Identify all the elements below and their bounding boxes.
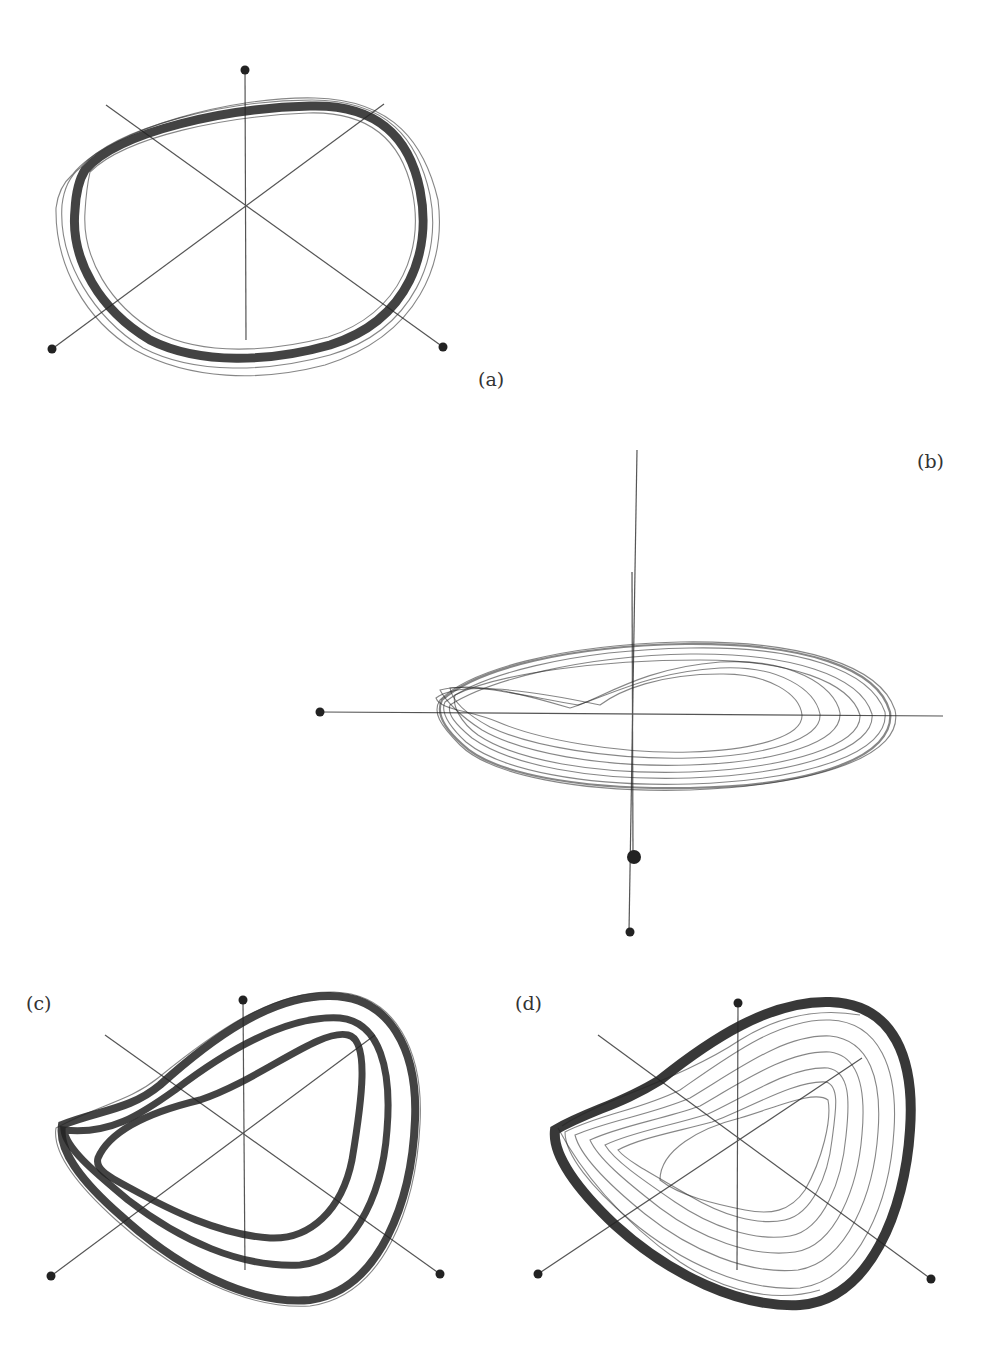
trajectory	[56, 98, 439, 376]
axis-endpoint-dot	[626, 928, 635, 937]
axis-endpoint-dot	[48, 345, 57, 354]
axis-endpoint-dot	[927, 1275, 936, 1284]
axis-endpoint-dot	[316, 708, 325, 717]
trajectory	[555, 1002, 911, 1305]
panel-b: (b)	[316, 450, 945, 937]
axis-endpoint-dot	[239, 996, 248, 1005]
axis-endpoint-dot	[241, 66, 250, 75]
panel-d: (d)	[515, 992, 936, 1305]
panel-a: (a)	[48, 66, 505, 391]
axis-endpoint-dot	[436, 1270, 445, 1279]
panel-label-c: (c)	[26, 992, 51, 1014]
axis-endpoint-dot	[47, 1272, 56, 1281]
trajectory	[436, 642, 896, 790]
panel-label-b: (b)	[917, 450, 944, 472]
axis-endpoint-dot-large	[627, 850, 641, 864]
figure-canvas: (a) (b)	[0, 0, 993, 1351]
panel-label-a: (a)	[478, 368, 504, 390]
axis-endpoint-dot	[734, 999, 743, 1008]
panel-label-d: (d)	[515, 992, 542, 1014]
axis-diagonal-2	[538, 1058, 862, 1274]
axis-endpoint-dot	[439, 343, 448, 352]
axis-endpoint-dot	[534, 1270, 543, 1279]
axis-horizontal	[320, 712, 943, 716]
panel-c: (c)	[26, 992, 445, 1306]
